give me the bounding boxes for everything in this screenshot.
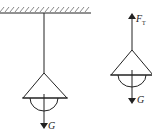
ceiling-hatching — [0, 7, 89, 12]
lampshade — [23, 73, 67, 98]
diagram-canvas: G F T G — [0, 0, 152, 138]
ceiling — [0, 7, 91, 13]
right-figure: F T G — [110, 13, 152, 105]
left-figure: G — [0, 7, 91, 131]
weight-label: G — [137, 94, 144, 105]
tension-subscript: T — [142, 20, 146, 26]
weight-label: G — [48, 120, 55, 131]
